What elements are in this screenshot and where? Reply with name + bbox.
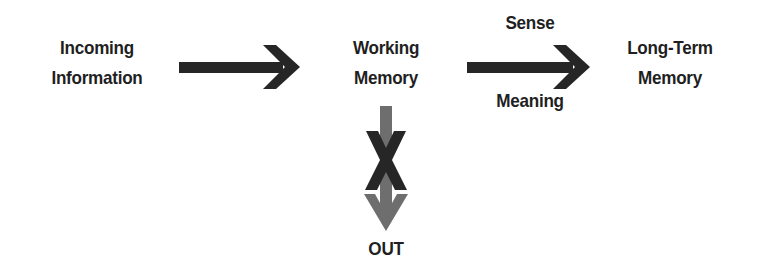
node-working-memory: Working Memory bbox=[332, 33, 440, 93]
node-out: OUT bbox=[350, 234, 422, 264]
arrow-incoming-to-working bbox=[179, 45, 300, 89]
node-incoming-information: Incoming Information bbox=[37, 33, 158, 93]
edge-label-meaning: Meaning bbox=[481, 86, 580, 116]
node-long-term-memory: Long-Term Memory bbox=[612, 33, 729, 93]
edge-label-sense: Sense bbox=[490, 8, 571, 38]
arrow-working-to-longterm bbox=[467, 45, 590, 89]
